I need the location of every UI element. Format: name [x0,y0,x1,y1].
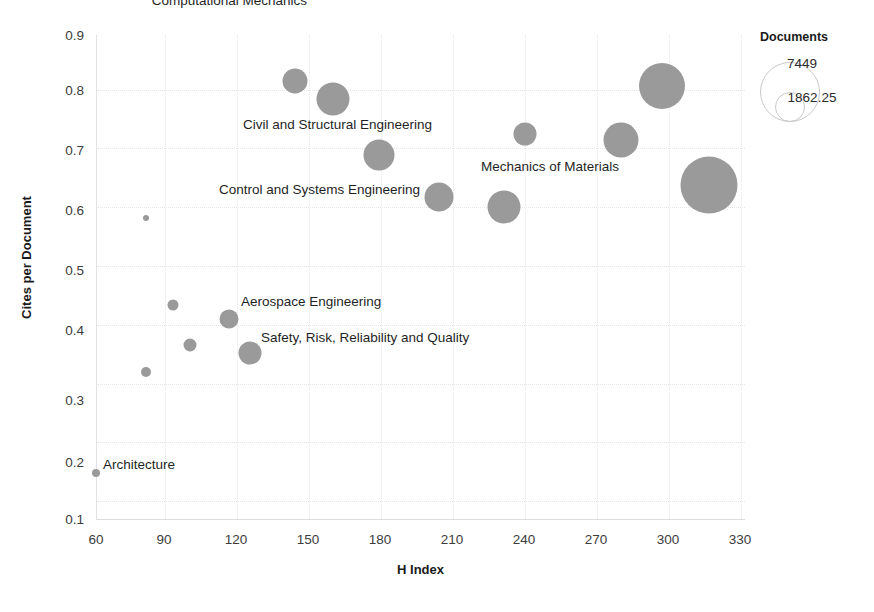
bubble-point-231[interactable] [488,191,521,224]
bubble-point-297[interactable] [639,63,685,109]
y-tick-0.2: 0.2 [65,455,84,470]
gridline-x-120 [237,35,238,519]
x-tick-150: 150 [297,532,320,547]
x-axis-title: H Index [96,562,745,577]
y-tick-0.5: 0.5 [65,263,84,278]
bubble-point-179[interactable] [364,140,395,171]
y-axis-ticks: 0.9 0.8 0.7 0.6 0.5 0.4 0.3 0.2 0.1 [0,0,84,612]
x-tick-270: 270 [585,532,608,547]
x-tick-120: 120 [225,532,248,547]
bubble-point-92[interactable] [168,300,179,311]
x-tick-90: 90 [156,532,171,547]
x-tick-240: 240 [513,532,536,547]
bubble-chart: 0.9 0.8 0.7 0.6 0.5 0.4 0.3 0.2 0.1 Cite… [0,0,874,612]
bubble-civil-and-structural-engineering[interactable] [317,83,350,116]
gridline-x-270 [597,35,598,519]
x-tick-210: 210 [441,532,464,547]
label-civil-and-structural-engineering: Civil and Structural Engineering [243,117,432,132]
gridline-x-150 [309,35,310,519]
gridline-y-0.3 [97,384,745,385]
x-tick-180: 180 [369,532,392,547]
legend-title: Documents [760,30,828,44]
gridline-x-210 [453,35,454,519]
bubble-point-144[interactable] [283,69,308,94]
gridline-y-0.2 [97,442,745,443]
label-architecture: Architecture [103,457,175,472]
bubble-computational-mechanics[interactable] [143,215,149,221]
plot-area [96,35,745,520]
gridline-x-90 [165,35,166,519]
bubble-aerospace-engineering[interactable] [220,310,239,329]
bubble-point-316[interactable] [681,157,738,214]
bubble-safety-risk-reliability-quality[interactable] [239,342,262,365]
gridline-y-0.6 [97,207,745,208]
gridline-x-180 [381,35,382,519]
gridline-y-0.1 [97,501,745,502]
bubble-mechanics-of-materials[interactable] [514,123,537,146]
gridline-y-0.5 [97,266,745,267]
x-tick-300: 300 [657,532,680,547]
bubble-point-280[interactable] [604,123,639,158]
label-control-and-systems-engineering: Control and Systems Engineering [219,182,420,197]
y-tick-0.1: 0.1 [65,512,84,527]
label-mechanics-of-materials: Mechanics of Materials [481,159,619,174]
bubble-control-and-systems-engineering[interactable] [425,183,454,212]
y-tick-0.3: 0.3 [65,393,84,408]
y-tick-0.4: 0.4 [65,323,84,338]
legend-value-large: 7449 [787,56,817,71]
y-tick-0.9: 0.9 [65,28,84,43]
label-computational-mechanics: Computational Mechanics [152,0,307,8]
y-axis-title: Cites per Document [19,188,34,328]
gridline-y-0.4 [97,325,745,326]
gridline-x-330 [741,35,742,519]
x-tick-330: 330 [729,532,752,547]
bubble-point-99[interactable] [184,339,197,352]
y-tick-0.6: 0.6 [65,203,84,218]
x-tick-60: 60 [88,532,103,547]
gridline-y-0.7 [97,148,745,149]
label-aerospace-engineering: Aerospace Engineering [241,294,381,309]
label-safety-risk-reliability-quality: Safety, Risk, Reliability and Quality [261,330,469,345]
legend-value-small: 1862.25 [788,90,837,105]
gridline-x-240 [525,35,526,519]
bubble-point-82[interactable] [141,367,151,377]
bubble-architecture[interactable] [92,469,100,477]
legend: Documents 7449 1862.25 [752,30,870,150]
y-tick-0.7: 0.7 [65,143,84,158]
y-tick-0.8: 0.8 [65,82,84,97]
